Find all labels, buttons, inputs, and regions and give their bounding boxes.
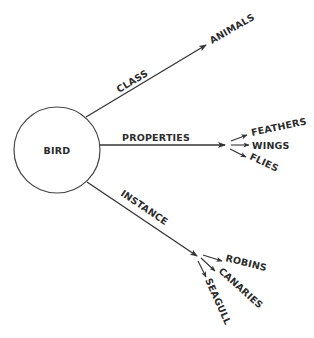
fan-arrow-seagull: [198, 261, 206, 277]
target-label-wings: WINGS: [252, 140, 290, 151]
edge-line-instance: [87, 182, 197, 256]
node-bird: BIRD: [14, 107, 100, 193]
edge-label-class: CLASS: [114, 67, 149, 94]
target-label-animals: ANIMALS: [208, 11, 257, 46]
edge-properties: PROPERTIES FEATHERS WINGS FLIES: [100, 115, 307, 173]
node-label-bird: BIRD: [44, 145, 71, 156]
fan-arrow-robins: [203, 255, 222, 261]
edge-label-properties: PROPERTIES: [122, 132, 190, 143]
target-label-robins: ROBINS: [225, 252, 269, 273]
target-label-flies: FLIES: [248, 151, 280, 174]
target-label-feathers: FEATHERS: [250, 115, 307, 137]
edge-instance: INSTANCE ROBINS CANARIES SEAGULL: [87, 182, 268, 326]
semantic-network-diagram: BIRD CLASS ANIMALS PROPERTIES FEATHERS W…: [0, 0, 314, 338]
edge-line-class: [86, 45, 206, 117]
edge-class: CLASS ANIMALS: [86, 11, 256, 117]
fan-arrow-flies: [230, 149, 246, 157]
fan-arrow-canaries: [201, 258, 215, 271]
fan-arrow-feathers: [231, 135, 247, 141]
